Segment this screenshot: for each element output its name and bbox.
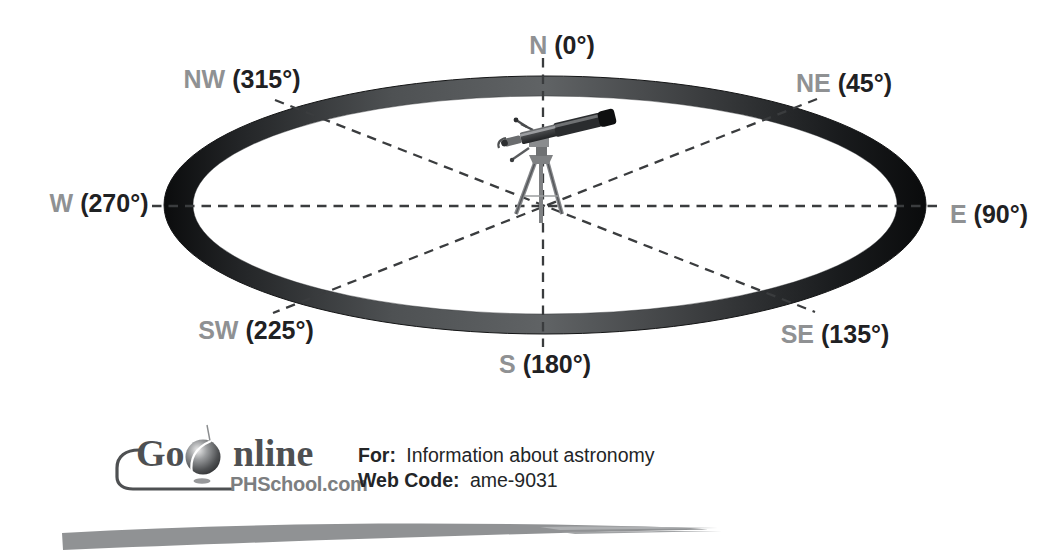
compass-label-se: SE (135°) — [781, 320, 890, 349]
direction-deg-ne: (45°) — [838, 69, 892, 98]
divider-swoosh — [62, 524, 722, 550]
web-code-line: Web Code: ame-9031 — [358, 471, 558, 491]
direction-abbr-w: W — [50, 189, 74, 218]
direction-deg-se: (135°) — [821, 320, 889, 349]
compass-label-nw: NW (315°) — [183, 65, 300, 94]
for-value: Information about astronomy — [406, 444, 654, 466]
direction-deg-n: (0°) — [554, 31, 595, 60]
direction-abbr-s: S — [499, 350, 516, 379]
direction-abbr-n: N — [529, 31, 547, 60]
compass-label-w: W (270°) — [50, 189, 149, 218]
direction-abbr-e: E — [950, 200, 967, 229]
direction-deg-s: (180°) — [523, 350, 591, 379]
globe-icon — [186, 425, 221, 484]
compass-label-n: N (0°) — [529, 31, 595, 60]
direction-deg-nw: (315°) — [232, 65, 300, 94]
direction-deg-e: (90°) — [974, 200, 1028, 229]
direction-abbr-sw: SW — [198, 316, 238, 345]
go-online-logo-go: Go — [136, 434, 185, 472]
figure-azimuth-diagram: N (0°) NE (45°) E (90°) SE (135°) S (180… — [0, 0, 1063, 558]
direction-deg-sw: (225°) — [245, 316, 313, 345]
compass-label-s: S (180°) — [499, 350, 591, 379]
direction-deg-w: (270°) — [80, 189, 148, 218]
go-online-logo-nline: nline — [233, 434, 313, 472]
phschool-link[interactable]: PHSchool.com — [230, 474, 368, 494]
compass-label-e: E (90°) — [950, 200, 1028, 229]
web-code-label: Web Code: — [358, 469, 459, 491]
direction-abbr-ne: NE — [796, 69, 831, 98]
compass-label-ne: NE (45°) — [796, 69, 892, 98]
web-code-value: ame-9031 — [470, 469, 558, 491]
direction-abbr-nw: NW — [183, 65, 225, 94]
for-label: For: — [358, 444, 396, 466]
direction-abbr-se: SE — [781, 320, 814, 349]
for-line: For: Information about astronomy — [358, 446, 655, 466]
compass-label-sw: SW (225°) — [198, 316, 314, 345]
